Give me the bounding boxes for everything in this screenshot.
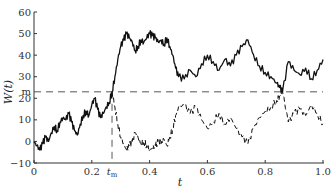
y-tick-label: 0 xyxy=(25,136,31,147)
y-tick-label: 30 xyxy=(18,71,31,82)
reflected-path-line xyxy=(112,92,323,152)
t-m-tick-label: tm xyxy=(107,166,118,179)
x-tick-label: 0.8 xyxy=(257,166,273,177)
x-axis-title: t xyxy=(178,176,183,189)
brownian-motion-chart: −100102030405060m 00.20.40.60.81.0tm W(t… xyxy=(0,0,335,196)
y-tick-label: 10 xyxy=(18,114,31,125)
x-tick-label: 0 xyxy=(31,166,37,177)
series xyxy=(34,31,323,152)
y-tick-label: 40 xyxy=(18,50,31,61)
w-path-line xyxy=(34,31,323,150)
x-tick-label: 0.6 xyxy=(199,166,215,177)
y-tick-label: 50 xyxy=(18,28,31,39)
x-tick-label: 0.2 xyxy=(84,166,100,177)
reference-lines xyxy=(34,92,323,163)
y-tick-label: 60 xyxy=(18,7,31,18)
x-tick-label: 0.4 xyxy=(142,166,158,177)
y-tick-label: −10 xyxy=(10,158,31,169)
m-tick-label: m xyxy=(22,86,32,97)
y-axis-title: W(t) xyxy=(2,80,15,104)
x-tick-label: 1.0 xyxy=(315,166,331,177)
